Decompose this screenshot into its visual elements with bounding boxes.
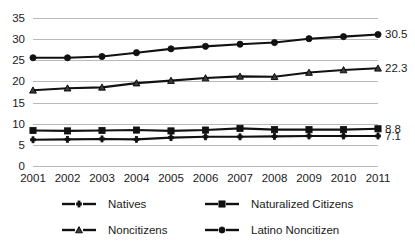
data-point-latino-noncitizen [202,43,208,49]
data-point-latino-noncitizen [133,50,139,56]
legend-items: NativesNaturalized CitizensNoncitizensLa… [62,198,354,236]
legend-marker-noncitizens [76,227,83,233]
legend-label-latino-noncitizen: Latino Noncitizen [251,224,339,236]
data-point-naturalized-citizens [64,128,70,134]
y-tick-label: 10 [12,118,25,130]
series-end-value-labels: 7.18.822.330.5 [385,28,407,141]
data-point-natives [272,135,277,137]
y-tick-label: 30 [12,33,25,45]
data-point-naturalized-citizens [202,127,208,133]
x-tick-label: 2006 [193,172,219,184]
x-tick-label: 2008 [262,172,288,184]
data-point-natives [341,135,346,137]
legend-label-noncitizens: Noncitizens [108,224,168,236]
legend-marker-latino-noncitizen [219,227,225,233]
end-value-label: 22.3 [385,62,407,74]
data-point-naturalized-citizens [306,127,312,133]
legend-label-naturalized-citizens: Naturalized Citizens [251,198,354,210]
legend-marker-naturalized-citizens [219,201,225,207]
data-point-latino-noncitizen [375,31,381,37]
data-point-naturalized-citizens [375,126,381,132]
data-point-naturalized-citizens [271,127,277,133]
x-tick-label: 2004 [124,172,150,184]
data-point-latino-noncitizen [168,46,174,52]
data-point-latino-noncitizen [30,55,36,61]
data-point-natives [169,137,174,139]
x-axis-tick-labels: 2001200220032004200520062007200820092010… [20,172,390,184]
data-point-natives [31,139,36,141]
data-point-naturalized-citizens [168,128,174,134]
y-tick-label: 35 [12,12,25,24]
legend-svg: NativesNaturalized CitizensNoncitizensLa… [0,190,415,249]
legend-label-natives: Natives [108,198,147,210]
data-point-natives [307,135,312,137]
data-point-naturalized-citizens [30,127,36,133]
data-point-naturalized-citizens [237,125,243,131]
y-tick-label: 15 [12,97,25,109]
x-tick-label: 2009 [296,172,322,184]
data-point-natives [376,135,381,137]
data-point-latino-noncitizen [306,36,312,42]
x-tick-label: 2001 [20,172,46,184]
data-point-naturalized-citizens [99,127,105,133]
end-value-label: 30.5 [385,28,407,40]
y-tick-label: 20 [12,75,25,87]
x-tick-label: 2011 [366,172,391,184]
data-point-latino-noncitizen [237,41,243,47]
data-point-latino-noncitizen [271,39,277,45]
y-tick-label: 25 [12,54,25,66]
data-point-natives [203,136,208,138]
x-tick-label: 2003 [89,172,115,184]
plot-area: 05101520253035 2001200220032004200520062… [0,0,415,185]
x-tick-label: 2005 [158,172,184,184]
data-point-naturalized-citizens [133,127,139,133]
x-tick-label: 2010 [331,172,357,184]
line-chart: 05101520253035 2001200220032004200520062… [0,0,415,249]
y-axis-tick-labels: 05101520253035 [12,12,25,172]
data-point-latino-noncitizen [99,53,105,59]
data-point-natives [238,136,243,138]
gridlines [33,19,378,167]
data-point-latino-noncitizen [340,34,346,40]
plot-svg: 05101520253035 2001200220032004200520062… [0,0,415,185]
data-point-latino-noncitizen [64,55,70,61]
data-point-natives [134,138,139,140]
x-tick-label: 2002 [55,172,81,184]
data-point-natives [100,138,105,140]
chart-legend: NativesNaturalized CitizensNoncitizensLa… [0,190,415,249]
end-value-label: 8.8 [385,123,401,135]
data-point-natives [65,138,70,140]
legend-marker-natives [77,203,82,205]
data-point-naturalized-citizens [340,127,346,133]
x-tick-label: 2007 [227,172,253,184]
y-tick-label: 5 [19,139,25,151]
y-tick-label: 0 [19,160,25,172]
